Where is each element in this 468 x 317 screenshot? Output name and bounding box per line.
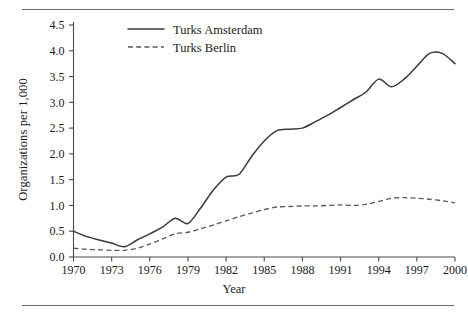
x-axis-label: Year (0, 282, 468, 297)
y-tick-label: 2.5 (50, 121, 65, 135)
x-tick-label: 2000 (443, 263, 467, 277)
line-chart: 0.00.51.01.52.02.53.03.54.04.5 197019731… (0, 0, 468, 317)
y-tick-label: 1.5 (50, 173, 65, 187)
y-tick-label: 4.5 (50, 18, 65, 32)
y-tick-label: 1.0 (50, 199, 65, 213)
x-tick-label: 1985 (252, 263, 276, 277)
x-tick-label: 1970 (62, 263, 86, 277)
series-line-turks-amsterdam (74, 52, 456, 247)
figure-container: Organizations per 1,000 Year 0.00.51.01.… (0, 0, 468, 317)
y-axis-label: Organizations per 1,000 (16, 40, 31, 240)
x-tick-label: 1988 (290, 263, 314, 277)
series-line-turks-berlin (74, 198, 456, 251)
x-tick-label: 1991 (329, 263, 353, 277)
x-tick-label: 1997 (405, 263, 429, 277)
x-tick-label: 1982 (214, 263, 238, 277)
y-tick-label: 3.5 (50, 70, 65, 84)
data-series-group (74, 52, 456, 250)
y-tick-label: 3.0 (50, 96, 65, 110)
chart-legend: Turks AmsterdamTurks Berlin (128, 23, 263, 55)
x-axis-ticks: 1970197319761979198219851988199119941997… (62, 257, 468, 277)
legend-label: Turks Amsterdam (173, 23, 263, 37)
y-axis-ticks: 0.00.51.01.52.02.53.03.54.04.5 (50, 18, 74, 264)
x-tick-label: 1979 (176, 263, 200, 277)
bottom-rule (22, 305, 454, 306)
y-tick-label: 0.5 (50, 224, 65, 238)
x-tick-label: 1973 (100, 263, 124, 277)
y-tick-label: 4.0 (50, 44, 65, 58)
top-rule (22, 9, 454, 10)
y-tick-label: 2.0 (50, 147, 65, 161)
x-tick-label: 1994 (367, 263, 391, 277)
x-tick-label: 1976 (138, 263, 162, 277)
legend-label: Turks Berlin (173, 41, 237, 55)
